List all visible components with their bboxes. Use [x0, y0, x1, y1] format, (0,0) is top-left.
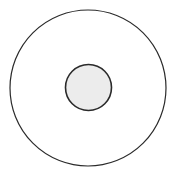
inner-circle	[66, 65, 112, 111]
concentric-circles-diagram	[0, 0, 172, 174]
